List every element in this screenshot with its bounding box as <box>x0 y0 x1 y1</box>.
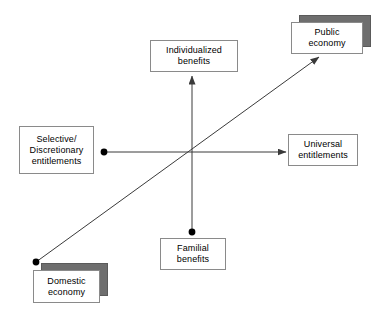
diagram-canvas: IndividualizedbenefitsPubliceconomySelec… <box>0 0 378 316</box>
node-label-line: Selective/ <box>36 134 76 145</box>
node-universal-entitlements[interactable]: Universalentitlements <box>288 134 358 166</box>
node-familial-benefits[interactable]: Familialbenefits <box>160 238 226 270</box>
node-label-line: Individualized <box>166 45 222 56</box>
node-label-line: economy <box>48 287 85 298</box>
horizontal-axis-start-dot <box>101 149 108 156</box>
node-label-line: Public <box>314 27 339 38</box>
node-public-economy[interactable]: Publiceconomy <box>291 22 363 54</box>
node-label-line: entitlements <box>298 150 348 161</box>
vertical-axis <box>189 76 196 235</box>
vertical-axis-start-dot <box>189 229 196 236</box>
node-label-line: Domestic <box>47 276 85 287</box>
node-label-line: benefits <box>177 254 209 265</box>
node-label-line: entitlements <box>32 156 82 167</box>
node-individualized-benefits[interactable]: Individualizedbenefits <box>150 40 238 72</box>
horizontal-axis <box>101 149 286 156</box>
node-label-line: economy <box>308 38 345 49</box>
node-domestic-economy[interactable]: Domesticeconomy <box>33 270 100 303</box>
diagonal-axis-start-dot <box>33 259 40 266</box>
node-label-line: benefits <box>178 56 210 67</box>
node-selective-discretionary-entitlements[interactable]: Selective/Discretionaryentitlements <box>19 126 94 174</box>
node-label-line: Universal <box>304 139 342 150</box>
node-label-line: Discretionary <box>30 145 84 156</box>
node-label-line: Familial <box>177 243 209 254</box>
